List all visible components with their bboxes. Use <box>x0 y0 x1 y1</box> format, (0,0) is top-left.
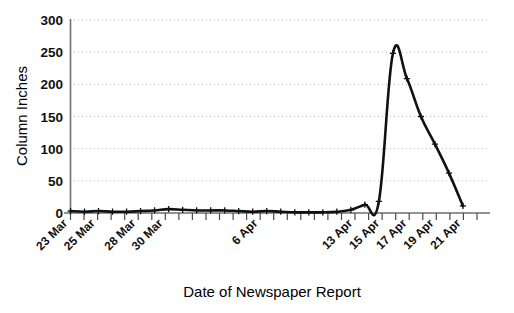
data-point-marker <box>306 209 312 215</box>
x-tick-label-9: 21 Apr <box>428 216 464 252</box>
x-tick-marks <box>71 213 478 220</box>
series-line <box>71 45 463 215</box>
y-tick-label-150: 150 <box>40 110 63 125</box>
y-tick-label-300: 300 <box>40 13 63 28</box>
data-point-marker <box>334 209 340 215</box>
x-tick-label-1: 25 Mar <box>61 216 98 253</box>
x-tick-label-4: 6 Apr <box>229 216 261 248</box>
data-point-marker <box>109 209 115 215</box>
chart-figure: 300 250 200 150 100 50 0 23 Mar 25 Mar 2… <box>0 0 514 313</box>
x-tick-labels: 23 Mar 25 Mar 28 Mar 30 Mar 6 Apr 13 Apr… <box>33 216 463 253</box>
y-tick-label-250: 250 <box>40 45 63 60</box>
y-tick-label-100: 100 <box>40 142 63 157</box>
y-axis-title: Column Inches <box>13 66 30 166</box>
data-point-marker <box>180 207 186 213</box>
data-point-marker <box>320 209 326 215</box>
data-point-marker <box>278 209 284 215</box>
data-point-marker <box>376 198 382 204</box>
y-tick-label-50: 50 <box>48 174 63 189</box>
data-point-marker <box>390 50 396 56</box>
gridlines <box>70 20 490 181</box>
data-point-marker <box>166 206 172 212</box>
data-point-marker <box>81 209 87 215</box>
data-point-marker <box>348 207 354 213</box>
x-axis-title: Date of Newspaper Report <box>183 283 361 300</box>
data-series <box>67 45 466 215</box>
data-point-marker <box>292 209 298 215</box>
data-point-marker <box>250 209 256 215</box>
line-chart: 300 250 200 150 100 50 0 23 Mar 25 Mar 2… <box>0 0 514 313</box>
y-tick-labels: 300 250 200 150 100 50 0 <box>40 13 63 221</box>
x-tick-label-3: 30 Mar <box>129 216 166 253</box>
y-tick-label-200: 200 <box>40 77 63 92</box>
